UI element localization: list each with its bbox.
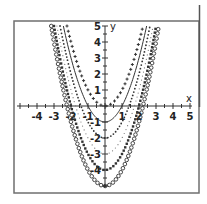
y-tick-label: -2	[90, 133, 101, 144]
y-tick-label: -1	[90, 117, 101, 128]
y-tick-label: 4	[94, 37, 101, 48]
x-tick-label: 3	[153, 111, 160, 122]
x-tick-label: 4	[170, 111, 177, 122]
x-tick-label: 5	[187, 111, 194, 122]
x-tick-label: -4	[31, 111, 42, 122]
parabola-family-chart: -4-3-2-112345-4-3-2-112345 x y	[0, 0, 207, 204]
y-tick-label: 5	[94, 21, 101, 32]
x-axis-label: x	[186, 93, 192, 104]
plot-frame	[14, 21, 199, 193]
y-tick-label: 1	[94, 85, 101, 96]
y-tick-label: 2	[94, 69, 101, 80]
y-tick-label: 3	[94, 53, 101, 64]
x-tick-label: -3	[48, 111, 59, 122]
axis-ticks: -4-3-2-112345-4-3-2-112345	[20, 21, 194, 186]
y-axis-label: y	[110, 21, 116, 32]
vertex-marker	[104, 185, 107, 188]
